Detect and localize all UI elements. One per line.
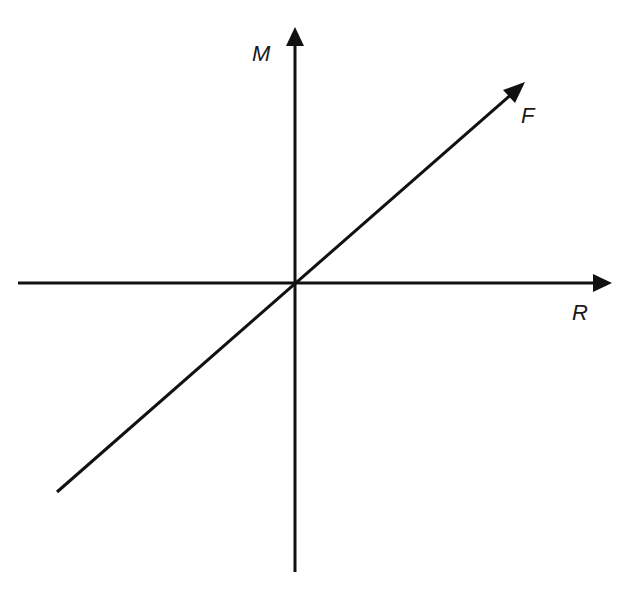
horizontal-axis-label: R	[572, 300, 588, 325]
line-f-label: F	[521, 103, 536, 128]
horizontal-axis	[18, 274, 612, 292]
vertical-axis-arrowhead-icon	[286, 27, 304, 46]
diagram-canvas: M F R	[0, 0, 632, 615]
vertical-axis-label: M	[252, 41, 271, 66]
vertical-axis	[286, 27, 304, 572]
line-f	[57, 82, 525, 492]
horizontal-axis-arrowhead-icon	[593, 274, 612, 292]
